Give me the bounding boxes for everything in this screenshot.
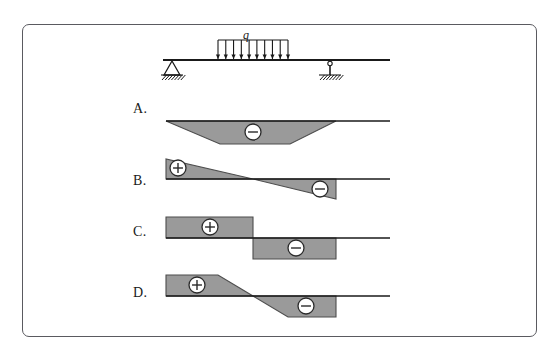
distributed-load-label: q: [243, 28, 249, 43]
load-arrow-head: [255, 55, 259, 59]
link-support-hatching: [319, 75, 343, 80]
option-c-label: C.: [133, 224, 146, 240]
minus-sign-badge: [245, 124, 261, 140]
beam-diagram: [161, 40, 390, 80]
load-arrow-head: [224, 55, 228, 59]
minus-sign-badge: [312, 181, 328, 197]
load-arrow-head: [263, 55, 267, 59]
load-arrow-head: [216, 55, 220, 59]
plus-sign-badge: [170, 160, 186, 176]
shear-force-options: [166, 121, 390, 317]
pin-support-hatching: [161, 75, 185, 80]
option-c-diagram[interactable]: [166, 217, 390, 259]
option-d-diagram[interactable]: [166, 275, 390, 317]
load-arrow-head: [231, 55, 235, 59]
plus-sign-badge: [189, 277, 205, 293]
load-arrow-head: [247, 55, 251, 59]
page-canvas: A.B.C.D.q: [0, 0, 560, 359]
load-arrow-head: [286, 55, 290, 59]
option-b-label: B.: [133, 173, 146, 189]
minus-sign-badge: [298, 298, 314, 314]
positive-region: [166, 275, 253, 296]
option-a-label: A.: [133, 101, 147, 117]
diagram-vector-layer: [0, 0, 560, 359]
negative-region: [253, 296, 336, 317]
load-arrow-head: [270, 55, 274, 59]
load-arrow-head: [239, 55, 243, 59]
option-d-label: D.: [133, 285, 147, 301]
pin-support-triangle: [164, 61, 180, 75]
plus-sign-badge: [202, 219, 218, 235]
option-b-diagram[interactable]: [166, 159, 390, 199]
link-support-pin-circle: [328, 61, 332, 65]
load-arrow-head: [278, 55, 282, 59]
minus-sign-badge: [288, 240, 304, 256]
option-a-diagram[interactable]: [166, 121, 390, 144]
